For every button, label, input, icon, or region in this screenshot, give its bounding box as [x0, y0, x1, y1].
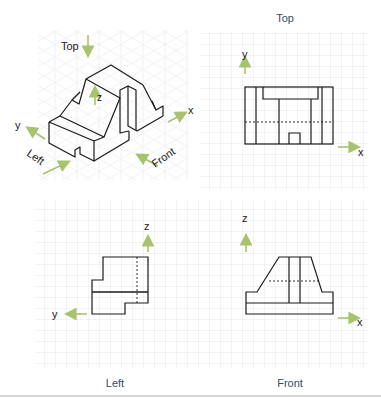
left-view-grid	[35, 200, 200, 368]
front-view-grid	[200, 200, 368, 368]
front-view-z-label: z	[242, 212, 248, 224]
bottom-divider	[0, 395, 381, 397]
orthographic-projection-diagram: Top z y x Left Front y x z y z x	[0, 0, 381, 405]
front-view-x-label: x	[357, 316, 363, 328]
iso-y-label: y	[15, 119, 21, 131]
top-view-title: Top	[235, 12, 335, 24]
top-view-y-label: y	[242, 48, 248, 60]
top-view-grid	[200, 32, 368, 190]
iso-top-label: Top	[61, 40, 79, 52]
front-view-title: Front	[240, 377, 340, 389]
iso-x-label: x	[188, 104, 194, 116]
iso-z-label: z	[97, 92, 102, 103]
left-view-z-label: z	[144, 220, 150, 232]
left-view-title: Left	[65, 377, 165, 389]
top-view-x-label: x	[358, 146, 364, 158]
left-view-y-label: y	[52, 308, 58, 320]
